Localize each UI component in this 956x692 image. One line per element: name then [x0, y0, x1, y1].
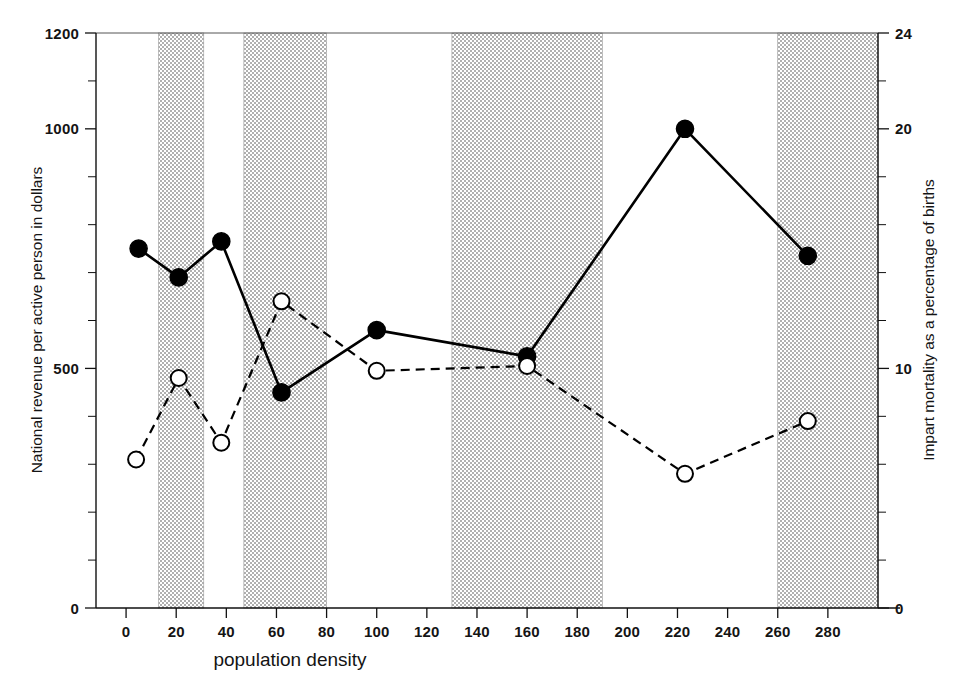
chart-canvas: 050010001200 0102024 0204060801001201401… — [0, 0, 956, 692]
y-axis-right-tick-label: 24 — [895, 25, 913, 42]
x-axis-tick-label: 160 — [514, 623, 540, 640]
x-axis-tick-label: 220 — [665, 623, 691, 640]
x-axis-title: population density — [213, 649, 367, 670]
x-axis-tick-label: 40 — [218, 623, 235, 640]
x-axis-tick-label: 100 — [364, 623, 390, 640]
y-axis-right-tick-label: 0 — [895, 600, 904, 617]
y-axis-left-title: National revenue per active person in do… — [28, 166, 45, 473]
data-point-marker — [368, 322, 385, 339]
figure-container: 050010001200 0102024 0204060801001201401… — [0, 0, 956, 692]
data-point-marker — [130, 240, 147, 257]
data-point-marker — [171, 370, 187, 386]
data-point-marker — [274, 293, 290, 309]
x-axis-tick-label: 200 — [615, 623, 641, 640]
x-axis-tick-label: 120 — [414, 623, 440, 640]
y-axis-left-ticks: 050010001200 — [45, 25, 96, 617]
x-axis-tick-label: 260 — [765, 623, 791, 640]
x-axis-tick-label: 140 — [464, 623, 490, 640]
data-point-marker — [799, 247, 816, 264]
x-axis-ticks: 020406080100120140160180200220240260280 — [122, 608, 841, 640]
x-axis-tick-label: 240 — [715, 623, 741, 640]
x-axis-tick-label: 180 — [564, 623, 590, 640]
x-axis-tick-label: 60 — [268, 623, 285, 640]
shaded-band — [452, 33, 602, 608]
data-point-marker — [213, 233, 230, 250]
data-point-marker — [273, 384, 290, 401]
y-axis-right-ticks: 0102024 — [878, 25, 913, 617]
shaded-bands — [159, 33, 878, 608]
x-axis-tick-label: 20 — [168, 623, 185, 640]
x-axis-tick-label: 280 — [815, 623, 841, 640]
y-axis-right-tick-label: 20 — [895, 120, 912, 137]
y-axis-right-tick-label: 10 — [895, 360, 912, 377]
shaded-band — [159, 33, 204, 608]
data-point-marker — [128, 452, 144, 468]
data-point-marker — [677, 466, 693, 482]
shaded-band — [244, 33, 327, 608]
y-axis-left-tick-label: 1000 — [45, 120, 79, 137]
data-point-marker — [800, 413, 816, 429]
data-point-marker — [369, 363, 385, 379]
y-axis-left-tick-label: 500 — [53, 360, 79, 377]
shaded-band — [778, 33, 878, 608]
y-axis-right-title: Impart mortality as a percentage of birt… — [920, 179, 937, 461]
y-axis-left-tick-label: 1200 — [45, 25, 79, 42]
data-point-marker — [170, 269, 187, 286]
x-axis-tick-label: 80 — [318, 623, 335, 640]
y-axis-left-tick-label: 0 — [70, 600, 79, 617]
data-point-marker — [213, 435, 229, 451]
x-axis-tick-label: 0 — [122, 623, 131, 640]
data-point-marker — [676, 120, 693, 137]
data-point-marker — [519, 358, 535, 374]
